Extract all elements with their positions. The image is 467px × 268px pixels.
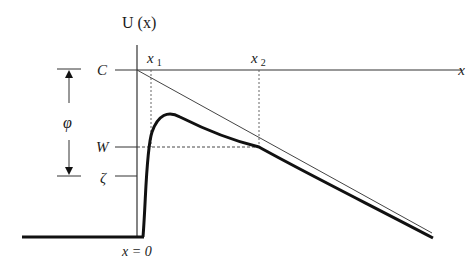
phi-label: φ [63, 114, 72, 132]
origin-label: x = 0 [121, 244, 152, 259]
arrow-down-icon [65, 167, 73, 175]
x-axis-label: x [457, 62, 465, 78]
x1-label: x1 [146, 50, 162, 68]
arrow-up-icon [65, 70, 73, 78]
w-label: W [96, 139, 110, 155]
potential-barrier-diagram: U (x) x C W ζ φ x = 0 x1 x2 [0, 0, 467, 268]
y-axis-label: U (x) [122, 14, 156, 32]
potential-curve [143, 114, 433, 238]
c-label: C [97, 62, 108, 78]
zeta-label: ζ [100, 170, 107, 186]
x2-label: x2 [250, 50, 266, 68]
applied-field-line [137, 70, 432, 233]
